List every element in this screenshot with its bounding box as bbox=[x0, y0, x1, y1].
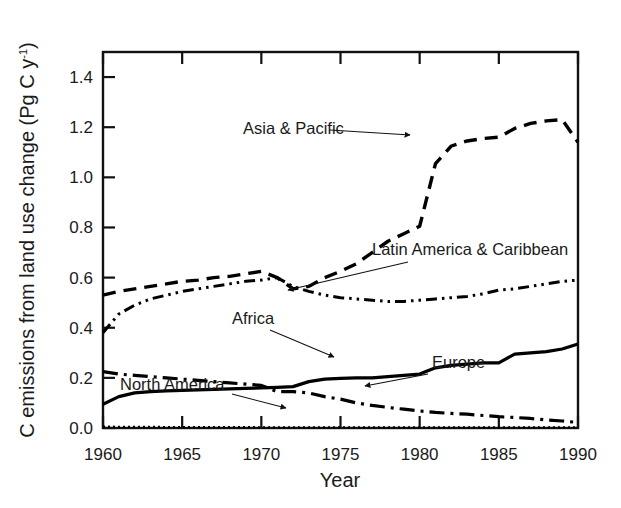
x-tick-label: 1975 bbox=[322, 445, 360, 464]
series-line bbox=[103, 278, 578, 333]
x-tick-label: 1970 bbox=[242, 445, 280, 464]
y-tick-label: 0.4 bbox=[69, 319, 93, 338]
x-tick-label: 1990 bbox=[559, 445, 597, 464]
series-label: Latin America & Caribbean bbox=[372, 240, 568, 258]
y-tick-label: 1.0 bbox=[69, 168, 93, 187]
line-chart: 0.00.20.40.60.81.01.21.41960196519701975… bbox=[0, 0, 621, 508]
series-label: Africa bbox=[232, 309, 275, 327]
x-tick-label: 1980 bbox=[401, 445, 439, 464]
x-tick-label: 1965 bbox=[163, 445, 201, 464]
y-axis-title: C emissions from land use change (Pg C y… bbox=[16, 42, 38, 438]
y-axis-title-superscript: -1 bbox=[17, 49, 29, 59]
x-tick-label: 1985 bbox=[480, 445, 518, 464]
y-axis-title-tail: ) bbox=[16, 42, 38, 49]
series-label: North America bbox=[120, 375, 225, 393]
annotation-leader bbox=[270, 330, 334, 357]
axes-group: 0.00.20.40.60.81.01.21.41960196519701975… bbox=[69, 52, 597, 464]
series-line bbox=[103, 120, 578, 295]
annotations-group: Asia & PacificLatin America & CaribbeanA… bbox=[120, 119, 568, 408]
chart-figure: 0.00.20.40.60.81.01.21.41960196519701975… bbox=[0, 0, 621, 508]
y-tick-label: 1.2 bbox=[69, 118, 93, 137]
y-tick-label: 0.6 bbox=[69, 269, 93, 288]
series-label: Asia & Pacific bbox=[243, 119, 344, 137]
x-axis-title: Year bbox=[320, 469, 361, 491]
y-tick-label: 0.0 bbox=[69, 419, 93, 438]
series-label: Europe bbox=[432, 353, 485, 371]
annotation-leader bbox=[232, 394, 286, 408]
y-tick-label: 0.2 bbox=[69, 369, 93, 388]
y-axis-title-main: C emissions from land use change (Pg C y bbox=[16, 59, 38, 438]
y-tick-label: 0.8 bbox=[69, 218, 93, 237]
y-tick-label: 1.4 bbox=[69, 68, 93, 87]
x-tick-label: 1960 bbox=[84, 445, 122, 464]
